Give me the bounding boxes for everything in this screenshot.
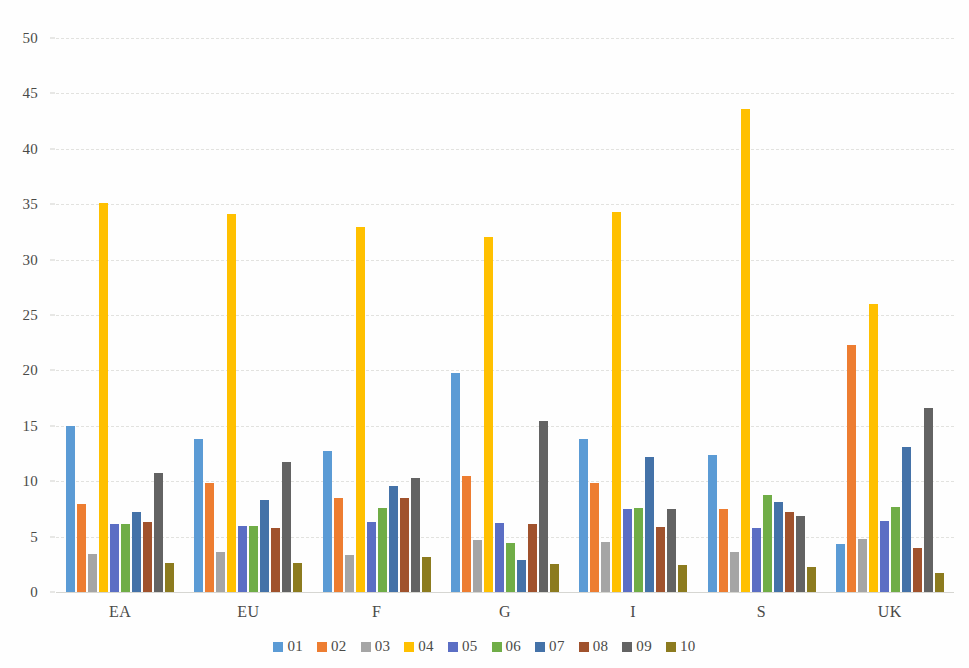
legend-item[interactable]: 04 [404,638,434,655]
bar-group [569,38,697,592]
bar-group [56,38,184,592]
bar-group [184,38,312,592]
bar [539,421,548,592]
bar [774,502,783,592]
bar [730,552,739,592]
y-axis-tick-label: 50 [22,30,38,47]
bar [334,498,343,592]
bar [752,528,761,592]
bar [913,548,922,592]
bar [110,524,119,592]
legend-item[interactable]: 06 [492,638,522,655]
bar [367,522,376,592]
bar [891,507,900,592]
bar [88,554,97,592]
y-axis-tick-mark [50,38,55,39]
legend-label: 08 [593,638,609,655]
legend-item[interactable]: 08 [579,638,609,655]
bar [656,527,665,592]
bar [132,512,141,592]
bar [451,373,460,592]
bar [623,509,632,592]
bar [356,227,365,592]
bar-groups [56,38,954,592]
bar [216,552,225,592]
bar-chart: 05101520253035404550 EAEUFGISUK 01020304… [0,0,969,668]
bar-group [441,38,569,592]
legend-item[interactable]: 07 [535,638,565,655]
bar [143,522,152,592]
legend-swatch-icon [492,642,502,652]
bar [484,237,493,592]
y-axis-tick-label: 0 [30,584,38,601]
bar [99,203,108,592]
bar [77,504,86,592]
bar [194,439,203,592]
legend-label: 04 [418,638,434,655]
bar [935,573,944,592]
chart-legend: 01020304050607080910 [0,638,969,655]
y-axis-tick-label: 15 [22,417,38,434]
bar [590,483,599,592]
bar [323,451,332,592]
legend-swatch-icon [273,642,283,652]
y-axis-tick-mark [50,315,55,316]
legend-swatch-icon [579,642,589,652]
bar [495,523,504,592]
y-axis-tick-label: 40 [22,140,38,157]
x-axis-category-label: F [313,592,441,622]
plot-area [56,38,954,592]
bar [345,555,354,592]
legend-item[interactable]: 03 [361,638,391,655]
legend-swatch-icon [535,642,545,652]
y-axis-tick-label: 25 [22,307,38,324]
x-axis-category-label: EU [184,592,312,622]
legend-item[interactable]: 10 [666,638,696,655]
y-axis-tick-mark [50,148,55,149]
y-axis-tick-mark [50,93,55,94]
x-axis-category-label: EA [56,592,184,622]
bar [528,524,537,592]
bar [227,214,236,592]
bar [66,426,75,592]
legend-swatch-icon [622,642,632,652]
bar [634,508,643,592]
bar [154,473,163,592]
y-axis-tick-mark [50,425,55,426]
bar [506,543,515,592]
legend-item[interactable]: 02 [317,638,347,655]
bar [165,563,174,592]
bar [271,528,280,592]
y-axis-tick-label: 35 [22,196,38,213]
legend-item[interactable]: 05 [448,638,478,655]
y-axis-tick-mark [50,592,55,593]
bar [924,408,933,592]
y-axis-tick-mark [50,481,55,482]
y-axis-tick-mark [50,259,55,260]
x-axis-category-label: S [697,592,825,622]
bar-group [826,38,954,592]
bar [517,560,526,592]
legend-swatch-icon [404,642,414,652]
bar [645,457,654,592]
bar [719,509,728,592]
y-axis-tick-label: 10 [22,473,38,490]
bar [282,462,291,592]
bar [550,564,559,592]
bar [422,557,431,592]
legend-label: 09 [636,638,652,655]
legend-label: 05 [462,638,478,655]
y-axis-tick-label: 30 [22,251,38,268]
y-axis-tick-label: 45 [22,85,38,102]
bar [411,478,420,592]
bar [579,439,588,592]
bar [612,212,621,592]
bar [785,512,794,592]
legend-swatch-icon [317,642,327,652]
bar [667,509,676,592]
legend-item[interactable]: 01 [273,638,303,655]
y-axis-tick-label: 5 [30,528,38,545]
legend-item[interactable]: 09 [622,638,652,655]
y-axis-tick-mark [50,536,55,537]
x-axis-category-label: G [441,592,569,622]
